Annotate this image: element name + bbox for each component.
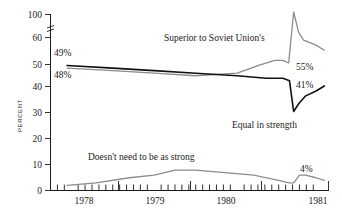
series-line-superior-to-soviet-unions [67, 12, 324, 76]
series-label-doesnt-need: Doesn't need to be as strong [88, 152, 195, 162]
y-axis-title: PERCENT [17, 99, 23, 132]
x-tick-label-1978: 1978 [75, 196, 94, 206]
value-label-end-equal: 41% [296, 80, 314, 90]
y-tick-label-100: 100 [28, 10, 43, 20]
x-axis: 1978 1979 1980 1981 [51, 181, 330, 206]
y-axis-ticks [45, 15, 51, 191]
y-tick-label-10: 10 [33, 160, 43, 170]
y-tick-label-0: 0 [37, 186, 42, 196]
series-label-equal: Equal in strength [232, 120, 297, 130]
series-line-doesnt-need-to-be-as-strong [67, 170, 324, 185]
value-label-end-superior: 55% [296, 62, 314, 72]
y-tick-label-40: 40 [33, 82, 43, 92]
value-label-start-equal: 49% [54, 48, 72, 58]
value-label-end-doesnt-need: 4% [300, 164, 313, 174]
x-axis-minor-ticks [57, 185, 313, 191]
series-label-superior: Superior to Soviet Union's [164, 33, 265, 43]
y-axis: 100 60 50 40 30 20 10 0 PERCENT [17, 10, 54, 196]
series-line-equal-in-strength [67, 66, 324, 112]
x-tick-label-1979: 1979 [146, 196, 165, 206]
y-tick-label-50: 50 [33, 60, 43, 70]
x-tick-label-1980: 1980 [217, 196, 236, 206]
annotations-group: Superior to Soviet Union's Equal in stre… [54, 33, 314, 174]
value-label-start-superior: 48% [54, 70, 72, 80]
percent-line-chart: 100 60 50 40 30 20 10 0 PERCENT 1978 197… [0, 0, 342, 218]
y-tick-label-30: 30 [33, 108, 43, 118]
chart-container: 100 60 50 40 30 20 10 0 PERCENT 1978 197… [0, 0, 342, 218]
y-tick-label-60: 60 [33, 33, 43, 43]
y-tick-label-20: 20 [33, 134, 43, 144]
x-tick-label-1981: 1981 [309, 196, 328, 206]
